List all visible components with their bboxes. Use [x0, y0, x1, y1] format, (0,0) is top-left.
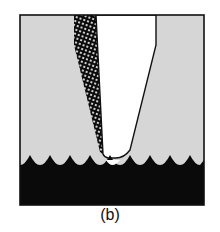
diagram-figure	[0, 0, 220, 232]
figure-caption: (b)	[0, 206, 220, 224]
